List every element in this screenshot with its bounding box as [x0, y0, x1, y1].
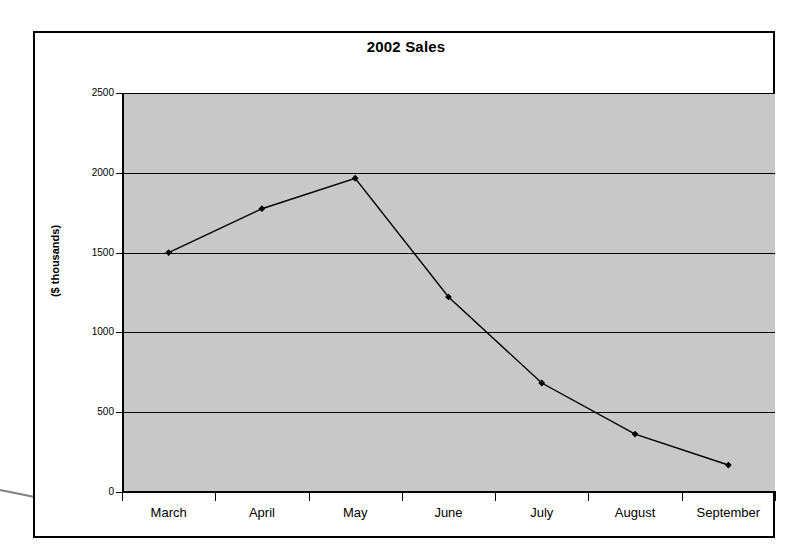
y-tick-label-0: 0 — [42, 487, 114, 497]
x-tick-label-april: April — [215, 505, 308, 520]
x-tick-6 — [682, 493, 683, 501]
x-tick-1 — [215, 493, 216, 501]
x-tick-label-july: July — [495, 505, 588, 520]
chart-title: 2002 Sales — [35, 38, 777, 55]
x-tick-2 — [309, 493, 310, 501]
x-tick-label-may: May — [309, 505, 402, 520]
x-tick-label-august: August — [588, 505, 681, 520]
data-point-september — [725, 462, 732, 469]
x-tick-7 — [775, 493, 776, 501]
y-tick-2000 — [116, 173, 123, 174]
data-series — [122, 93, 775, 492]
y-tick-1000 — [116, 332, 123, 333]
x-tick-label-march: March — [122, 505, 215, 520]
y-axis-title: ($ thousands) — [49, 181, 61, 341]
chart-frame: 2002 Sales 05001000150020002500 ($ thous… — [33, 31, 775, 538]
y-axis-labels: 05001000150020002500 — [35, 93, 114, 493]
x-tick-5 — [588, 493, 589, 501]
data-point-august — [632, 431, 639, 438]
data-point-march — [165, 249, 172, 256]
data-point-april — [259, 205, 266, 212]
x-tick-3 — [402, 493, 403, 501]
y-tick-label-2000: 2000 — [42, 168, 114, 178]
y-tick-label-500: 500 — [42, 407, 114, 417]
x-tick-label-june: June — [402, 505, 495, 520]
y-tick-label-2500: 2500 — [42, 88, 114, 98]
series-line — [169, 178, 729, 465]
y-tick-2500 — [116, 93, 123, 94]
x-tick-0 — [122, 493, 123, 501]
y-tick-1500 — [116, 253, 123, 254]
y-tick-500 — [116, 412, 123, 413]
x-tick-4 — [495, 493, 496, 501]
x-tick-label-september: September — [682, 505, 775, 520]
